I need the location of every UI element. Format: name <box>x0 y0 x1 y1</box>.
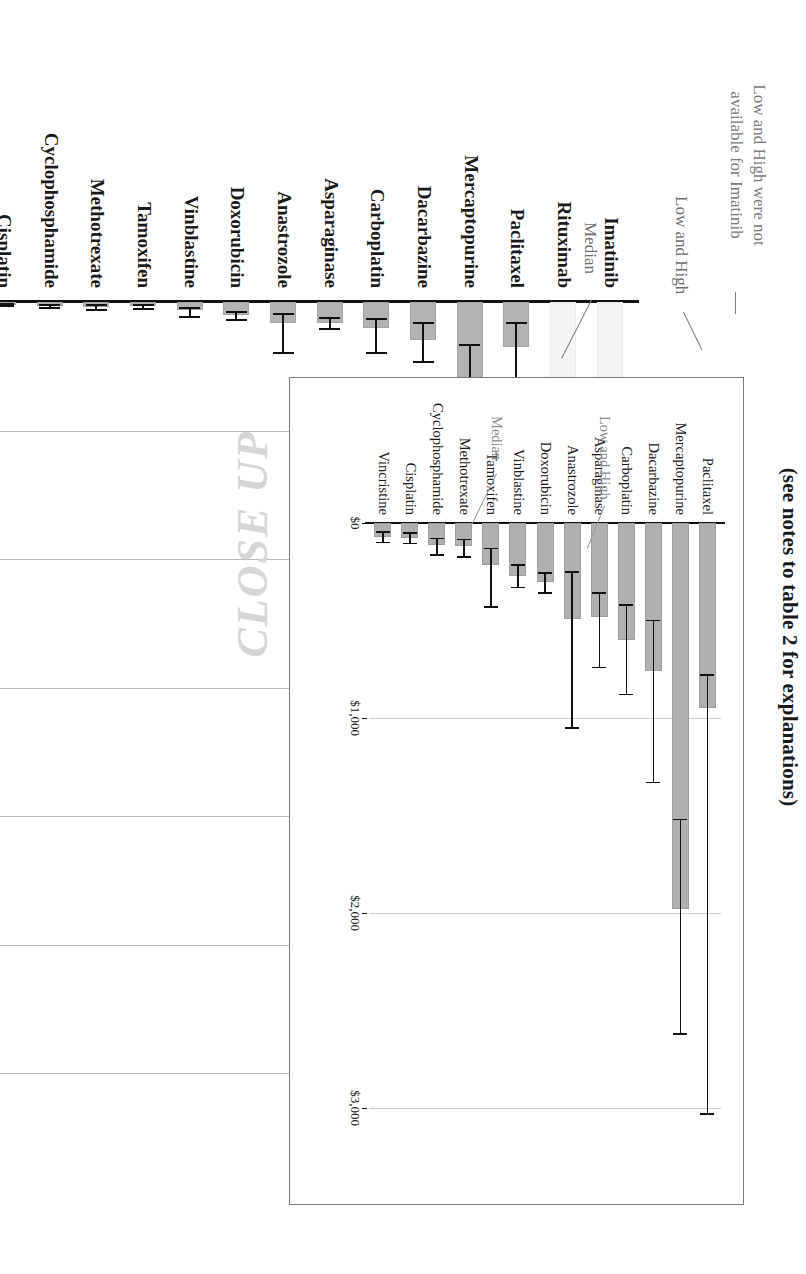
error-bar-cap-high <box>179 316 200 318</box>
error-bar-cap-low <box>273 313 294 315</box>
bar-row: Vinblastine <box>504 523 531 1108</box>
bar-row: Dacarbazine <box>640 523 667 1108</box>
category-label: Asparaginase <box>320 28 342 288</box>
error-bar-cap-low <box>226 311 247 313</box>
category-label: Doxorubicin <box>537 305 554 515</box>
bar-row: Vinblastine <box>166 302 213 1073</box>
error-bar-cap-low <box>403 532 417 534</box>
bar-row: Methotrexate <box>73 302 120 1073</box>
error-bar-cap-low <box>430 538 444 540</box>
category-label: Mercaptopurine <box>460 28 482 288</box>
error-bar-cap-high <box>403 543 417 545</box>
error-bar-line <box>572 572 574 728</box>
error-bar-line <box>463 540 465 558</box>
bar-row: Asparaginase <box>586 523 613 1108</box>
error-bar-line <box>680 819 682 1034</box>
error-bar-cap-high <box>484 606 498 608</box>
category-label: Tamoxifen <box>133 28 155 288</box>
axis-tick-label: $3,000 <box>347 1090 363 1126</box>
bar-row: Cyclophosphamide <box>423 523 450 1108</box>
category-label: Rituximab <box>553 28 575 288</box>
error-bar-cap-low <box>565 571 579 573</box>
error-bar-line <box>599 593 601 667</box>
axis-tick-label: $0 <box>347 517 363 530</box>
error-bar-cap-high <box>673 1033 687 1035</box>
category-label: Carboplatin <box>618 305 635 515</box>
error-bar-line <box>626 605 628 695</box>
annotation-median-inset: Median <box>488 416 505 460</box>
annotation-low-high-inset: Low and High <box>596 416 613 500</box>
inset-close-up-chart: $0$1,000$2,000$3,000 PaclitaxelMercaptop… <box>289 377 744 1205</box>
error-bar-cap-low <box>179 307 200 309</box>
error-bar-line <box>653 621 655 783</box>
bar-row: Cisplatin <box>0 302 26 1073</box>
bar-row: Paclitaxel <box>694 523 721 1108</box>
error-bar-cap-high <box>457 556 471 558</box>
error-bar-cap-high <box>538 592 552 594</box>
error-bar-cap-high <box>319 328 340 330</box>
category-label: Vinblastine <box>510 305 527 515</box>
error-bar-cap-high <box>700 1113 714 1115</box>
error-bar-line <box>422 323 424 363</box>
error-bar-cap-high <box>646 782 660 784</box>
annotation-low-high-main: Low and High <box>671 196 691 294</box>
category-label: Cyclophosphamide <box>429 305 446 515</box>
category-label: Mercaptopurine <box>672 305 689 515</box>
error-bar-cap-low <box>592 592 606 594</box>
category-label: Cisplatin <box>0 28 15 288</box>
category-label: Methotrexate <box>86 28 108 288</box>
error-bar-line <box>544 573 546 593</box>
category-label: Carboplatin <box>366 28 388 288</box>
category-label: Cisplatin <box>402 305 419 515</box>
category-label: Anastrozole <box>273 28 295 288</box>
error-bar-cap-low <box>619 604 633 606</box>
inset-plot-area: $0$1,000$2,000$3,000 PaclitaxelMercaptop… <box>369 523 721 1108</box>
bar-row: Tamoxifen <box>120 302 167 1073</box>
bar-row: Mercaptopurine <box>667 523 694 1108</box>
bar-row: Tamoxifen <box>477 523 504 1108</box>
category-label: Vinblastine <box>180 28 202 288</box>
annotation-imatinib-leader <box>735 292 736 314</box>
bar-row: Methotrexate <box>450 523 477 1108</box>
bar-row: Cyclophosphamide <box>26 302 73 1073</box>
category-label: Paclitaxel <box>506 28 528 288</box>
error-bar-cap-low <box>484 548 498 550</box>
category-label: Anastrozole <box>564 305 581 515</box>
axis-tick-label: $1,000 <box>347 700 363 736</box>
error-bar-cap-high <box>376 542 390 544</box>
error-bar-cap-low <box>39 304 60 306</box>
annotation-imatinib-note: Low and High were not available for Imat… <box>724 40 770 290</box>
error-bar-line <box>282 314 284 353</box>
error-bar-cap-high <box>133 308 154 310</box>
category-label: Paclitaxel <box>699 305 716 515</box>
bar-row: Doxorubicin <box>213 302 260 1073</box>
error-bar-line <box>707 675 709 1114</box>
bar-row: Cisplatin <box>396 523 423 1108</box>
chart-stage: (see notes to table 2 for explanations) … <box>0 0 806 1274</box>
category-label: Methotrexate <box>456 305 473 515</box>
error-bar-cap-low <box>538 572 552 574</box>
error-bar-line <box>436 539 438 556</box>
error-bar-cap-high <box>511 587 525 589</box>
error-bar-cap-high <box>619 694 633 696</box>
axis-tick-label: $2,000 <box>347 895 363 931</box>
gridline <box>369 1108 721 1109</box>
category-label: Imatinib <box>600 28 622 288</box>
error-bar-cap-high <box>273 352 294 354</box>
category-label: Dacarbazine <box>413 28 435 288</box>
category-label: Doxorubicin <box>226 28 248 288</box>
error-bar-cap-high <box>565 727 579 729</box>
error-bar-cap-low <box>86 304 107 306</box>
error-bar-cap-low <box>646 620 660 622</box>
error-bar-cap-low <box>376 531 390 533</box>
page-title: (see notes to table 2 for explanations) <box>777 0 802 1274</box>
category-label: Dacarbazine <box>645 305 662 515</box>
bar-row: Vincristine <box>369 523 396 1108</box>
error-bar-cap-low <box>700 674 714 676</box>
error-bar-cap-low <box>319 317 340 319</box>
error-bar-cap-high <box>39 307 60 309</box>
error-bar-cap-high <box>430 554 444 556</box>
category-label: Cyclophosphamide <box>40 28 62 288</box>
bar-row: Anastrozole <box>559 523 586 1108</box>
error-bar-cap-low <box>673 819 687 821</box>
